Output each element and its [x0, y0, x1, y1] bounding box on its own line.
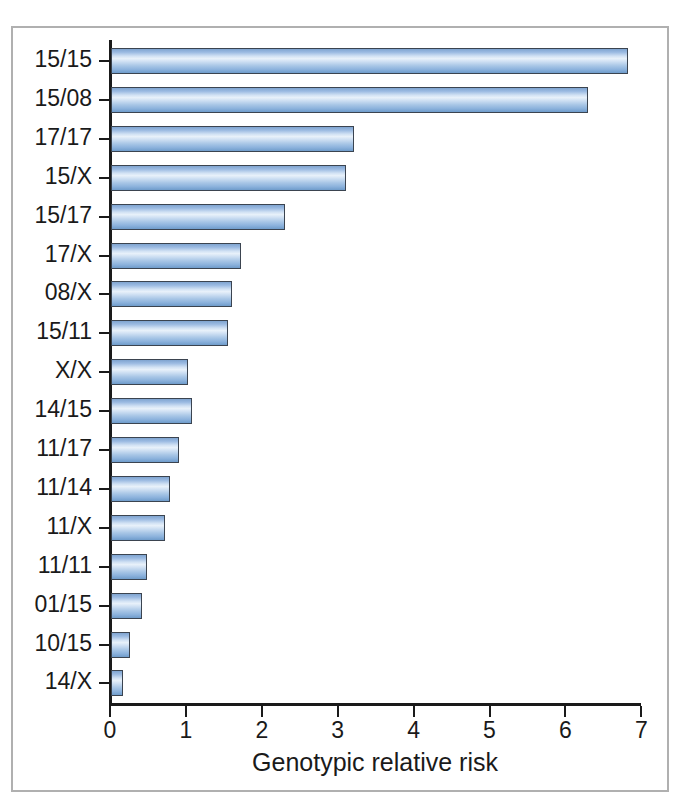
bar-11-11 [111, 554, 147, 580]
x-tick-mark [109, 706, 111, 717]
y-tick-mark [99, 255, 110, 257]
y-tick-mark [99, 371, 110, 373]
y-tick-mark [99, 177, 110, 179]
figure-chart-genotypic-relative-risk: 15/1515/0817/1715/X15/1717/X08/X15/11X/X… [0, 0, 679, 799]
y-tick-mark [99, 138, 110, 140]
y-tick-mark [99, 682, 110, 684]
x-tick-mark [261, 706, 263, 717]
x-tick-mark [489, 706, 491, 717]
bar-15-X [111, 165, 346, 191]
y-tick-label-X-X: X/X [0, 357, 92, 384]
y-tick-mark [99, 566, 110, 568]
bar-11-X [111, 515, 165, 541]
x-tick-mark [337, 706, 339, 717]
bar-15-11 [111, 320, 228, 346]
x-tick-label-6: 6 [545, 717, 585, 744]
y-tick-mark [99, 332, 110, 334]
plot-area: 15/1515/0817/1715/X15/1717/X08/X15/11X/X… [0, 0, 679, 799]
y-tick-mark [99, 216, 110, 218]
y-tick-label-15-11: 15/11 [0, 318, 92, 345]
y-tick-label-10-15: 10/15 [0, 630, 92, 657]
x-tick-mark [640, 706, 642, 717]
x-tick-label-5: 5 [470, 717, 510, 744]
x-tick-label-1: 1 [166, 717, 206, 744]
x-tick-label-7: 7 [621, 717, 661, 744]
bar-14-X [111, 670, 123, 696]
y-tick-mark [99, 605, 110, 607]
y-tick-label-11-14: 11/14 [0, 474, 92, 501]
bar-08-X [111, 281, 232, 307]
x-axis-line [109, 703, 641, 706]
x-tick-mark [185, 706, 187, 717]
y-tick-label-11-X: 11/X [0, 513, 92, 540]
x-tick-mark [413, 706, 415, 717]
y-tick-mark [99, 449, 110, 451]
y-tick-mark [99, 99, 110, 101]
y-tick-label-08-X: 08/X [0, 279, 92, 306]
bar-14-15 [111, 398, 192, 424]
x-tick-label-3: 3 [318, 717, 358, 744]
y-tick-mark [99, 60, 110, 62]
bar-X-X [111, 359, 188, 385]
y-tick-label-15-X: 15/X [0, 163, 92, 190]
y-tick-mark [99, 293, 110, 295]
y-tick-label-14-X: 14/X [0, 668, 92, 695]
bar-10-15 [111, 632, 130, 658]
y-tick-mark [99, 644, 110, 646]
bar-11-17 [111, 437, 179, 463]
y-tick-label-11-17: 11/17 [0, 435, 92, 462]
bar-01-15 [111, 593, 142, 619]
x-tick-label-2: 2 [242, 717, 282, 744]
bar-11-14 [111, 476, 170, 502]
bar-17-17 [111, 126, 354, 152]
x-axis-title: Genotypic relative risk [109, 748, 641, 777]
bar-15-17 [111, 204, 285, 230]
x-tick-mark [564, 706, 566, 717]
y-tick-label-17-17: 17/17 [0, 124, 92, 151]
x-tick-label-0: 0 [90, 717, 130, 744]
y-tick-label-11-11: 11/11 [0, 552, 92, 579]
y-tick-label-01-15: 01/15 [0, 591, 92, 618]
y-tick-label-15-08: 15/08 [0, 85, 92, 112]
bar-15-15 [111, 48, 628, 74]
bar-17-X [111, 243, 241, 269]
bar-15-08 [111, 87, 588, 113]
y-tick-mark [99, 410, 110, 412]
y-tick-label-15-17: 15/17 [0, 202, 92, 229]
y-tick-mark [99, 527, 110, 529]
y-tick-label-14-15: 14/15 [0, 396, 92, 423]
y-tick-label-17-X: 17/X [0, 241, 92, 268]
y-tick-mark [99, 488, 110, 490]
y-tick-label-15-15: 15/15 [0, 46, 92, 73]
x-tick-label-4: 4 [394, 717, 434, 744]
